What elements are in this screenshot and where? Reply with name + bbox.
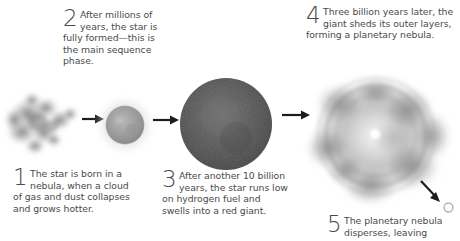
caption-step-1: 1 The star is born in a nebula, when a c… — [13, 168, 131, 214]
caption-step-3: 3 After another 10 billion years, the st… — [162, 170, 290, 216]
caption-step-4: 4 Three billion years later, the giant s… — [306, 6, 456, 41]
step-text-3: After another 10 billion years, the star… — [162, 170, 290, 216]
main-sequence-star — [93, 93, 157, 157]
stellar-lifecycle-diagram: 2 After millions of years, the star is f… — [0, 0, 460, 241]
step-number-5: 5 — [327, 214, 342, 235]
arrow-star-to-red-giant — [152, 113, 180, 127]
nebula-cloud — [2, 88, 92, 160]
step-number-3: 3 — [162, 169, 177, 190]
caption-step-5: 5 The planetary nebula disperses, leavin… — [327, 215, 452, 238]
step-text-5: The planetary nebula disperses, leaving — [327, 215, 452, 238]
step-number-1: 1 — [13, 167, 28, 188]
step-number-4: 4 — [306, 5, 321, 26]
red-giant-star — [178, 76, 274, 172]
step-text-4: Three billion years later, the giant she… — [306, 6, 456, 41]
white-dwarf — [442, 201, 456, 215]
step-number-2: 2 — [63, 8, 78, 29]
step-text-1: The star is born in a nebula, when a clo… — [13, 168, 131, 214]
step-text-2: After millions of years, the star is ful… — [63, 9, 163, 67]
caption-step-2: 2 After millions of years, the star is f… — [63, 9, 163, 67]
